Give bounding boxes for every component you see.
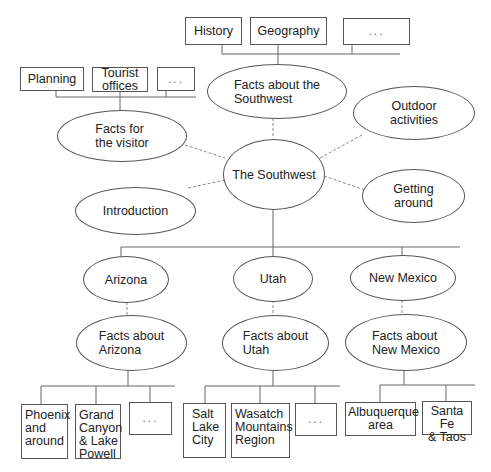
node-facts-utah[interactable]: Facts about Utah	[222, 315, 329, 371]
node-santa-fe[interactable]: Santa Fe & Taos	[422, 401, 472, 435]
node-tourist-offices[interactable]: Tourist offices	[92, 67, 148, 92]
node-label: Outdoor activities	[390, 99, 438, 127]
node-more-utah[interactable]: ...	[295, 403, 337, 436]
node-label: New Mexico	[369, 271, 437, 285]
node-facts-arizona[interactable]: Facts about Arizona	[76, 315, 187, 371]
node-label: Facts about New Mexico	[372, 329, 440, 357]
node-label: Facts for the visitor	[95, 122, 149, 150]
node-label: Planning	[28, 73, 77, 86]
node-geography[interactable]: Geography	[250, 17, 327, 45]
node-label: History	[194, 25, 233, 38]
ellipsis-label: ...	[368, 25, 384, 38]
node-planning[interactable]: Planning	[20, 67, 84, 91]
node-utah[interactable]: Utah	[233, 256, 313, 302]
node-label: Albuquerque area	[348, 405, 419, 432]
node-label: Facts about the Southwest	[234, 78, 320, 106]
node-label: Santa Fe & Taos	[428, 404, 466, 444]
node-label: The Southwest	[232, 168, 315, 182]
node-label: Facts about Utah	[243, 329, 308, 357]
node-label: Arizona	[105, 273, 147, 287]
node-getting-around[interactable]: Getting around	[362, 169, 465, 223]
ellipsis-label: ...	[142, 412, 158, 425]
node-facts-for-visitor[interactable]: Facts for the visitor	[57, 110, 187, 162]
node-more-arizona[interactable]: ...	[129, 402, 172, 435]
node-label: Facts about Arizona	[99, 329, 164, 357]
node-arizona[interactable]: Arizona	[83, 256, 169, 303]
node-introduction[interactable]: Introduction	[75, 187, 196, 235]
node-label: Phoenix and around	[25, 408, 70, 448]
node-history[interactable]: History	[185, 17, 242, 45]
node-label: Grand Canyon & Lake Powell	[79, 408, 122, 461]
node-new-mexico[interactable]: New Mexico	[350, 255, 456, 301]
node-grand-canyon[interactable]: Grand Canyon & Lake Powell	[75, 404, 121, 459]
node-more-visitor[interactable]: ...	[157, 67, 195, 91]
node-phoenix[interactable]: Phoenix and around	[21, 404, 68, 459]
ellipsis-label: ...	[308, 413, 324, 426]
node-label: Salt Lake City	[192, 407, 219, 447]
node-label: Getting around	[393, 182, 433, 210]
node-label: Utah	[260, 272, 286, 286]
node-label: Tourist offices	[102, 67, 139, 93]
node-outdoor-activities[interactable]: Outdoor activities	[353, 86, 475, 140]
node-facts-new-mexico[interactable]: Facts about New Mexico	[345, 314, 467, 371]
ellipsis-label: ...	[168, 73, 184, 86]
node-label: Wasatch Mountains Region	[235, 407, 293, 447]
node-more-southwest[interactable]: ...	[343, 18, 410, 45]
node-label: Geography	[258, 25, 320, 38]
node-albuquerque[interactable]: Albuquerque area	[345, 402, 416, 436]
node-wasatch[interactable]: Wasatch Mountains Region	[231, 403, 290, 458]
node-root-southwest[interactable]: The Southwest	[223, 139, 325, 210]
node-label: Introduction	[103, 204, 168, 218]
node-facts-about-southwest[interactable]: Facts about the Southwest	[207, 64, 347, 119]
node-salt-lake-city[interactable]: Salt Lake City	[183, 403, 226, 458]
